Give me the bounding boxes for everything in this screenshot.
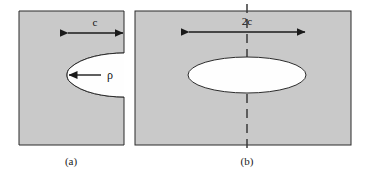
figure-container: c ρ (a) 2c (b) (0, 0, 371, 173)
panel-a: c ρ (a) (19, 11, 124, 168)
panel-a-dimension-label: c (93, 16, 98, 28)
panel-b-dimension-label: 2c (242, 15, 253, 27)
panel-a-caption: (a) (65, 155, 78, 168)
crack-geometry-figure: c ρ (a) 2c (b) (0, 0, 371, 173)
panel-b: 2c (b) (135, 4, 351, 168)
panel-b-caption: (b) (241, 155, 254, 168)
panel-b-elliptical-crack (188, 57, 306, 93)
panel-a-tip-radius-label: ρ (107, 68, 113, 82)
